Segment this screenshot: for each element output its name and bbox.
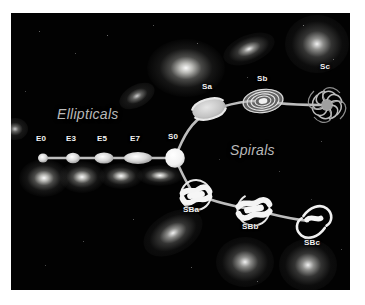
label-SBb: SBb [242,222,259,231]
label-S0: S0 [168,132,178,141]
label-Sb: Sb [257,74,268,83]
label-E5: E5 [97,134,107,143]
sky-background: Ellipticals Spirals E0 E3 E5 E7 S0 Sa Sb… [11,13,350,290]
label-SBa: SBa [183,205,199,214]
group-label-ellipticals: Ellipticals [57,106,119,122]
label-Sa: Sa [202,82,212,91]
label-E7: E7 [130,134,140,143]
node-E3 [66,153,80,163]
label-SBc: SBc [304,238,320,247]
node-Sb [241,86,286,116]
node-Sa [190,95,228,123]
node-E7 [124,152,152,164]
node-E0 [38,153,48,162]
node-E5 [95,152,114,163]
label-Sc: Sc [320,62,330,71]
figure-frame: Ellipticals Spirals E0 E3 E5 E7 S0 Sa Sb… [0,0,365,305]
label-E3: E3 [66,134,76,143]
group-label-spirals: Spirals [230,142,275,158]
label-E0: E0 [36,134,46,143]
node-S0 [165,148,185,168]
tuning-fork-schematic [11,13,350,290]
node-SBc [295,205,333,239]
